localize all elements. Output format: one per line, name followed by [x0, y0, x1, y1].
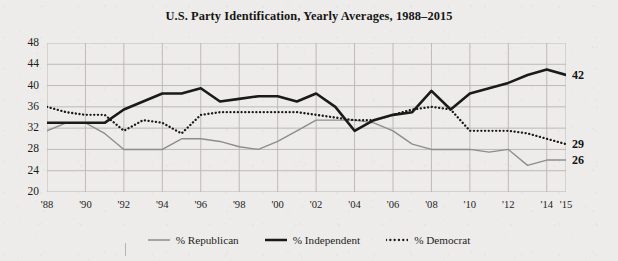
plot-area [47, 43, 566, 192]
x-axis-tick-label: '04 [341, 200, 369, 211]
legend-item-republican[interactable]: % Republican [148, 234, 239, 246]
y-axis-tick-label: 40 [17, 80, 39, 92]
y-axis-tick-label: 44 [17, 58, 39, 70]
y-axis-tick-label: 24 [17, 165, 39, 177]
x-axis-tick-label: '92 [110, 200, 138, 211]
legend-label: % Democrat [414, 234, 470, 246]
chart-svg [47, 43, 566, 192]
page-title: U.S. Party Identification, Yearly Averag… [0, 9, 618, 24]
x-axis-tick-label: '02 [302, 200, 330, 211]
x-axis-tick-label: '06 [379, 200, 407, 211]
y-axis-tick-label: 36 [17, 101, 39, 113]
legend-swatch-icon [386, 234, 408, 246]
series-line-republican [47, 120, 566, 165]
series-line-independent [47, 70, 566, 131]
legend-item-independent[interactable]: % Independent [265, 234, 360, 246]
chart-legend: % Republican% Independent% Democrat [0, 234, 618, 246]
x-axis-tick-label: '88 [33, 200, 61, 211]
series-end-value: 26 [572, 154, 584, 166]
x-axis-tick-label: '15 [552, 200, 580, 211]
y-axis-tick-label: 48 [17, 37, 39, 49]
legend-swatch-icon [148, 234, 170, 246]
series-end-value: 29 [572, 138, 584, 150]
x-axis-tick-label: '00 [264, 200, 292, 211]
x-axis-tick-label: '96 [187, 200, 215, 211]
legend-item-democrat[interactable]: % Democrat [386, 234, 470, 246]
x-axis-tick-label: '08 [417, 200, 445, 211]
x-axis-tick-label: '98 [225, 200, 253, 211]
x-axis-tick-label: '94 [148, 200, 176, 211]
x-axis-tick-label: '90 [71, 200, 99, 211]
y-axis-tick-label: 20 [17, 186, 39, 198]
legend-swatch-icon [265, 234, 287, 246]
legend-label: % Republican [176, 234, 239, 246]
x-axis-tick-label: '12 [494, 200, 522, 211]
x-axis-tick-label: '10 [456, 200, 484, 211]
y-axis-tick-label: 32 [17, 122, 39, 134]
y-axis-tick-label: 28 [17, 143, 39, 155]
legend-label: % Independent [293, 234, 360, 246]
series-end-value: 42 [572, 69, 584, 81]
